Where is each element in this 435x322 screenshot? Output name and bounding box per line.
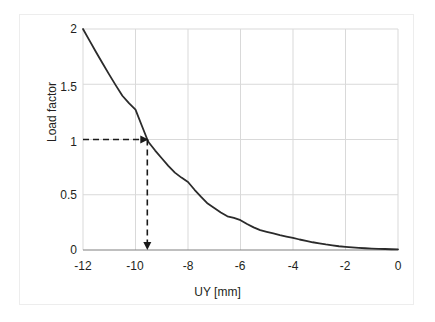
vertical-guide-arrowhead — [143, 242, 151, 250]
annotation-guides — [83, 136, 151, 251]
gridlines — [83, 29, 398, 250]
plot-svg — [0, 0, 435, 322]
chart-figure: 2 1.5 1 0.5 0 -12 -10 -8 -6 -4 -2 0 UY [… — [0, 0, 435, 322]
